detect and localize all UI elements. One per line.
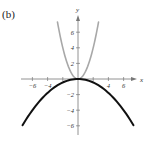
y-tick-label: 4 bbox=[71, 44, 75, 51]
x-tick-label: −6 bbox=[29, 82, 37, 89]
axes: xy−6−446−6−4−2246 bbox=[21, 6, 144, 135]
y-axis-label: y bbox=[75, 6, 80, 14]
x-tick-label: 6 bbox=[122, 82, 126, 89]
y-tick-label: −6 bbox=[66, 122, 74, 129]
y-tick-label: −2 bbox=[66, 91, 74, 98]
y-tick-label: −4 bbox=[66, 107, 74, 114]
x-tick-label: −4 bbox=[44, 82, 52, 89]
y-axis-arrow-icon bbox=[76, 15, 80, 21]
chart: xy−6−446−6−4−2246 bbox=[0, 0, 147, 142]
x-axis-arrow-icon bbox=[131, 77, 137, 81]
y-tick-label: 6 bbox=[71, 29, 75, 36]
x-tick-label: 4 bbox=[107, 82, 111, 89]
x-axis-label: x bbox=[139, 76, 144, 84]
y-tick-label: 2 bbox=[71, 60, 75, 67]
